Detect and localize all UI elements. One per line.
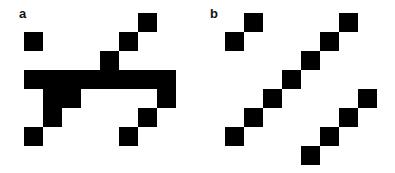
filled-cell	[263, 89, 282, 108]
filled-cell	[62, 70, 81, 89]
filled-cell	[119, 32, 138, 51]
filled-cell	[43, 89, 62, 108]
filled-cell	[119, 127, 138, 146]
filled-cell	[244, 108, 263, 127]
filled-cell	[43, 108, 62, 127]
filled-cell	[24, 127, 43, 146]
filled-cell	[320, 32, 339, 51]
filled-cell	[138, 108, 157, 127]
filled-cell	[100, 70, 119, 89]
filled-cell	[119, 70, 138, 89]
filled-cell	[320, 127, 339, 146]
filled-cell	[81, 70, 100, 89]
filled-cell	[358, 89, 377, 108]
filled-cell	[24, 32, 43, 51]
panel-b-label: b	[210, 7, 218, 20]
filled-cell	[282, 70, 301, 89]
filled-cell	[24, 70, 43, 89]
filled-cell	[138, 70, 157, 89]
filled-cell	[339, 108, 358, 127]
filled-cell	[225, 32, 244, 51]
panel-b-pixel-grid	[225, 13, 377, 165]
filled-cell	[157, 70, 176, 89]
filled-cell	[62, 89, 81, 108]
panel-a-pixel-grid	[24, 13, 176, 146]
filled-cell	[244, 13, 263, 32]
filled-cell	[301, 146, 320, 165]
filled-cell	[339, 13, 358, 32]
filled-cell	[138, 13, 157, 32]
filled-cell	[301, 51, 320, 70]
filled-cell	[100, 51, 119, 70]
filled-cell	[225, 127, 244, 146]
filled-cell	[157, 89, 176, 108]
filled-cell	[43, 70, 62, 89]
